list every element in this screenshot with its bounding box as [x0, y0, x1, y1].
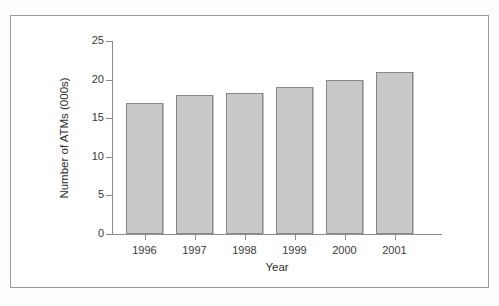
y-axis-line [112, 41, 113, 235]
bar [276, 87, 313, 234]
x-axis-tick-label: 1998 [221, 244, 269, 256]
x-axis-title: Year [112, 261, 442, 273]
x-axis-tick [195, 235, 196, 240]
bar [226, 93, 263, 234]
x-axis-tick [345, 235, 346, 240]
x-axis-tick-label: 1997 [171, 244, 219, 256]
y-axis-tick [106, 41, 112, 42]
x-axis-tick [295, 235, 296, 240]
y-axis-tick-label: 10 [78, 151, 104, 162]
y-axis-tick [106, 195, 112, 196]
plot-area: 0510152025 199619971998199920002001 Numb… [0, 0, 499, 306]
bar [376, 72, 413, 234]
x-axis-tick [245, 235, 246, 240]
x-axis-line [112, 234, 442, 235]
bar [326, 80, 363, 234]
y-axis-tick-label: 5 [78, 189, 104, 200]
chart-figure: 0510152025 199619971998199920002001 Numb… [0, 0, 499, 306]
y-axis-tick-label: 20 [78, 74, 104, 85]
x-axis-tick-label: 2001 [371, 244, 419, 256]
y-axis-tick-label: 25 [78, 35, 104, 46]
bar [126, 103, 163, 234]
bar [176, 95, 213, 234]
y-axis-title: Number of ATMs (000s) [58, 38, 70, 238]
x-axis-tick [145, 235, 146, 240]
x-axis-tick-label: 1999 [271, 244, 319, 256]
y-axis-tick [106, 234, 112, 235]
y-axis-tick-label: 0 [78, 228, 104, 239]
y-axis-tick [106, 118, 112, 119]
x-axis-tick-label: 2000 [321, 244, 369, 256]
y-axis-tick [106, 80, 112, 81]
y-axis-tick [106, 157, 112, 158]
y-axis-tick-label: 15 [78, 112, 104, 123]
x-axis-tick [395, 235, 396, 240]
x-axis-tick-label: 1996 [121, 244, 169, 256]
